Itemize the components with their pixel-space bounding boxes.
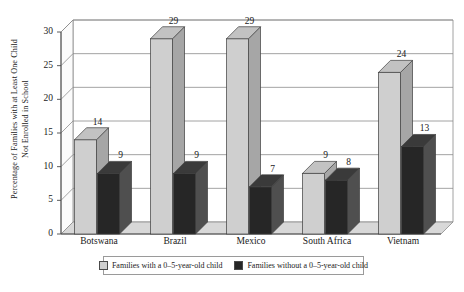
bar-front-face <box>75 140 97 234</box>
bar-mexico-series-2[interactable] <box>250 175 284 234</box>
x-category-label: Vietnam <box>365 236 441 246</box>
legend-label-with-child: Families with a 0–5-year-old child <box>112 261 222 270</box>
bar-value-label: 9 <box>315 150 337 160</box>
bar-value-label: 8 <box>338 157 360 167</box>
x-category-label: Botswana <box>61 236 137 246</box>
y-tick-label: 0 <box>35 228 53 238</box>
bar-front-face <box>98 173 120 234</box>
x-category-label: Brazil <box>137 236 213 246</box>
bar-front-face <box>379 72 401 234</box>
bar-side-face <box>196 161 208 234</box>
chart-canvas <box>0 0 464 292</box>
y-axis-title-line-2: Not Enrolled in School <box>21 14 32 224</box>
bar-value-label: 24 <box>391 49 413 59</box>
bar-vietnam-series-2[interactable] <box>402 134 436 234</box>
bar-botswana-series-2[interactable] <box>98 161 132 234</box>
bar-side-face <box>120 161 132 234</box>
bar-front-face <box>402 146 424 234</box>
chart-legend: Families with a 0–5-year-old child Famil… <box>103 256 364 275</box>
bar-front-face <box>326 180 348 234</box>
y-tick-label: 30 <box>35 26 53 36</box>
bar-side-face <box>424 134 436 234</box>
dark-swatch-icon <box>234 261 243 270</box>
bar-front-face <box>151 39 173 234</box>
y-tick-label: 5 <box>35 194 53 204</box>
bar-front-face <box>227 39 249 234</box>
legend-item-with-child[interactable]: Families with a 0–5-year-old child <box>99 261 222 270</box>
bar-brazil-series-2[interactable] <box>174 161 208 234</box>
y-tick-label: 10 <box>35 161 53 171</box>
y-axis-title: Percentage of Families with at Least One… <box>4 0 44 18</box>
y-tick-label: 25 <box>35 60 53 70</box>
legend-label-without-child: Families without a 0–5-year-old child <box>247 261 368 270</box>
bar-value-label: 7 <box>262 164 284 174</box>
y-tick-label: 20 <box>35 93 53 103</box>
bar-south-africa-series-2[interactable] <box>326 168 360 234</box>
y-axis-title-line-1: Percentage of Families with at Least One… <box>10 14 21 224</box>
bar-value-label: 9 <box>110 150 132 160</box>
bar-value-label: 29 <box>239 16 261 26</box>
bar-value-label: 9 <box>186 150 208 160</box>
bar-front-face <box>250 187 272 234</box>
x-category-label: South Africa <box>289 236 365 246</box>
bar-front-face <box>303 173 325 234</box>
light-swatch-icon <box>99 261 108 270</box>
bar-value-label: 14 <box>87 117 109 127</box>
bar-value-label: 13 <box>414 123 436 133</box>
bar-chart: Percentage of Families with at Least One… <box>0 0 464 292</box>
x-category-label: Mexico <box>213 236 289 246</box>
bar-front-face <box>174 173 196 234</box>
y-tick-label: 15 <box>35 127 53 137</box>
bar-value-label: 29 <box>163 16 185 26</box>
legend-item-without-child[interactable]: Families without a 0–5-year-old child <box>234 261 368 270</box>
